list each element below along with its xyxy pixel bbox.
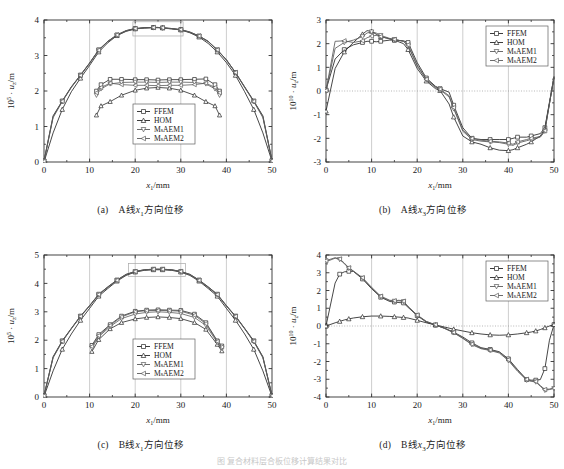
svg-text:x1/mm: x1/mm [145,415,170,426]
svg-text:HOM: HOM [507,38,525,47]
svg-text:MsAEM2: MsAEM2 [507,56,537,65]
svg-text:10: 10 [85,165,95,175]
svg-text:MsAEM1: MsAEM1 [154,125,184,134]
svg-text:2: 2 [317,286,322,296]
svg-text:0: 0 [317,321,322,331]
subplot-caption-b: (b)A线x3方向位移 [282,202,564,218]
svg-text:1: 1 [35,364,40,374]
svg-text:FFEM: FFEM [507,264,527,273]
chart-svg-d: 01020304050-4-3-2-101234x1/mm1010 · uz/m… [282,235,564,435]
subplot-label-b: (b) [379,205,391,215]
svg-text:50: 50 [268,400,278,410]
svg-text:2: 2 [35,335,40,345]
subplot-caption-text-d-post: 方向位移 [426,440,467,450]
plot-area-c: 01020304050012345x1/mm105 · uz/mFFEMHOMM… [0,235,282,435]
plot-area-d: 01020304050-4-3-2-101234x1/mm1010 · uz/m… [282,235,564,435]
svg-text:50: 50 [550,165,560,175]
svg-text:MsAEM1: MsAEM1 [507,282,537,291]
svg-text:HOM: HOM [154,116,172,125]
svg-text:3: 3 [317,15,322,25]
subplot-caption-d: (d)B线x3方向位移 [282,437,564,453]
svg-text:3: 3 [35,307,40,317]
svg-text:0: 0 [42,400,47,410]
svg-text:4: 4 [317,250,322,260]
svg-text:HOM: HOM [507,273,525,282]
svg-text:40: 40 [222,400,232,410]
svg-text:30: 30 [176,165,186,175]
chart-svg-c: 01020304050012345x1/mm105 · uz/mFFEMHOMM… [0,235,282,435]
subplot-b: 01020304050-3-2-10123x1/mm1010 · uz/mFFE… [282,0,564,234]
svg-text:105 · uz/m: 105 · uz/m [6,73,18,109]
svg-text:105 · uz/m: 105 · uz/m [6,308,18,344]
subplot-caption-a: (a)A线x1方向位移 [0,202,282,218]
svg-text:MsAEM1: MsAEM1 [507,47,537,56]
svg-text:10: 10 [367,165,377,175]
svg-text:50: 50 [550,400,560,410]
chart-svg-b: 01020304050-3-2-10123x1/mm1010 · uz/mFFE… [282,0,564,200]
figure-bottom-caption: 图 复合材料层合板位移计算结果对比 [0,455,564,466]
subplot-caption-text-a-pre: A线 [118,205,135,215]
svg-text:20: 20 [413,400,423,410]
svg-text:10: 10 [367,400,377,410]
svg-text:1: 1 [35,122,40,132]
plot-area-a: 0102030405001234x1/mm105 · uz/mFFEMHOMMs… [0,0,282,200]
subplot-caption-text-a-post: 方向位移 [144,205,185,215]
svg-text:0: 0 [324,165,329,175]
svg-text:0: 0 [317,86,322,96]
svg-text:FFEM: FFEM [507,29,527,38]
svg-text:50: 50 [268,165,278,175]
subplot-a: 0102030405001234x1/mm105 · uz/mFFEMHOMMs… [0,0,282,234]
svg-text:-4: -4 [314,392,322,402]
svg-text:30: 30 [458,165,468,175]
svg-text:40: 40 [504,165,514,175]
subplot-label-c: (c) [98,440,109,450]
svg-text:5: 5 [35,250,40,260]
subplot-c: 01020304050012345x1/mm105 · uz/mFFEMHOMM… [0,235,282,469]
svg-text:20: 20 [131,165,141,175]
subplot-caption-text-c-pre: B线 [119,440,136,450]
svg-text:0: 0 [42,165,47,175]
svg-text:10: 10 [85,400,95,410]
subplot-label-a: (a) [97,205,108,215]
svg-text:-1: -1 [314,339,322,349]
svg-text:MsAEM2: MsAEM2 [507,291,537,300]
subplot-caption-text-d-pre: B线 [401,440,418,450]
svg-text:MsAEM2: MsAEM2 [154,369,184,378]
svg-text:x1/mm: x1/mm [427,180,452,191]
svg-text:0: 0 [324,400,329,410]
svg-text:0: 0 [35,157,40,167]
subplot-caption-c: (c)B线x1方向位移 [0,437,282,453]
svg-text:3: 3 [35,51,40,61]
subplot-caption-text-b-post: 方向位移 [426,205,467,215]
svg-text:4: 4 [35,279,40,289]
svg-text:1010 · uz/m: 1010 · uz/m [288,71,300,110]
svg-text:0: 0 [35,392,40,402]
svg-text:2: 2 [35,86,40,96]
svg-text:30: 30 [176,400,186,410]
svg-text:-3: -3 [314,157,322,167]
svg-text:FFEM: FFEM [154,107,174,116]
svg-text:-2: -2 [314,357,322,367]
svg-text:-2: -2 [314,134,322,144]
svg-text:MsAEM2: MsAEM2 [154,134,184,143]
svg-text:-1: -1 [314,110,322,120]
svg-text:40: 40 [222,165,232,175]
svg-text:x1/mm: x1/mm [145,180,170,191]
svg-text:HOM: HOM [154,351,172,360]
svg-text:20: 20 [413,165,423,175]
svg-text:MsAEM1: MsAEM1 [154,360,184,369]
svg-text:20: 20 [131,400,141,410]
svg-text:1010 · uz/m: 1010 · uz/m [288,306,300,345]
svg-text:FFEM: FFEM [154,342,174,351]
plot-area-b: 01020304050-3-2-10123x1/mm1010 · uz/mFFE… [282,0,564,200]
svg-text:30: 30 [458,400,468,410]
svg-text:40: 40 [504,400,514,410]
subplot-d: 01020304050-4-3-2-101234x1/mm1010 · uz/m… [282,235,564,469]
svg-text:4: 4 [35,15,40,25]
svg-text:1: 1 [317,303,322,313]
svg-text:x1/mm: x1/mm [427,415,452,426]
svg-text:1: 1 [317,63,322,73]
chart-svg-a: 0102030405001234x1/mm105 · uz/mFFEMHOMMs… [0,0,282,200]
svg-text:-3: -3 [314,374,322,384]
subplot-label-d: (d) [379,440,391,450]
